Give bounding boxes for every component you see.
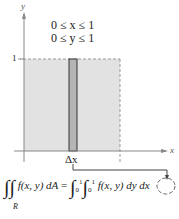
double-integral-figure: y x 1 0 ≤ x ≤ 1 0 ≤ y ≤ 1 Δx ∫∫ f(x, y) …	[0, 0, 179, 219]
arrow-head-icon	[165, 175, 169, 180]
iterated-integral-formula: ∫∫ f(x, y) dA = ∫01∫01 f(x, y) dy dx	[4, 176, 150, 199]
double-integral-sign: ∫∫	[4, 176, 15, 198]
dx-circle	[157, 178, 175, 194]
outer-lower-limit: 0	[76, 186, 80, 194]
circled-dx: dx	[139, 179, 149, 191]
y-tick-label: 1	[12, 53, 17, 63]
lhs-integrand: f(x, y) dA	[18, 179, 59, 191]
y-axis-label: y	[21, 1, 25, 11]
y-axis-arrow-icon	[22, 12, 26, 19]
rhs-integrand: f(x, y) dy	[98, 179, 137, 191]
x-axis-arrow-icon	[161, 149, 168, 153]
delta-x-label: Δx	[65, 153, 78, 165]
delta-x-strip	[69, 59, 77, 151]
equals-sign: =	[61, 179, 67, 191]
x-axis-label: x	[170, 145, 174, 155]
region-label: R	[13, 202, 18, 211]
inner-upper-limit: 1	[92, 178, 96, 186]
inner-lower-limit: 0	[88, 186, 92, 194]
constraint-y: 0 ≤ y ≤ 1	[51, 32, 94, 45]
